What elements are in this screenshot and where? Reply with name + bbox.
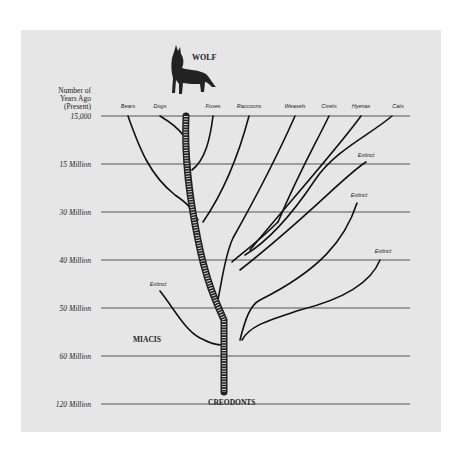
time-label: 50 Million [60, 304, 92, 313]
time-label: 15,000 [70, 112, 91, 121]
species-label: Cats [392, 103, 404, 109]
species-label: Bears [121, 103, 136, 109]
branches [128, 116, 392, 345]
species-label: Dogs [154, 103, 167, 109]
main-trunk [186, 116, 224, 392]
species-labels: Bears Dogs Foxes Raccoons Weasels Civets… [121, 103, 404, 109]
extinct-label: Extinct [358, 152, 375, 158]
species-label: Civets [321, 103, 337, 109]
extinct-label: Extinct [150, 281, 167, 287]
time-label: 30 Million [59, 208, 92, 217]
miacis-label: MIACIS [133, 335, 161, 344]
evolution-tree-diagram: Number of Years Ago (Present) 15,000 15 … [0, 0, 458, 461]
species-label: Weasels [285, 103, 306, 109]
extinct-label: Extinct [351, 192, 368, 198]
time-label: 60 Million [60, 352, 92, 361]
time-label: 40 Million [60, 256, 92, 265]
species-label: Raccoons [237, 103, 262, 109]
time-label: 120 Million [56, 400, 91, 409]
time-rules [101, 116, 410, 404]
species-label: Hyenas [352, 103, 371, 109]
time-labels: 15,000 15 Million 30 Million 40 Million … [56, 112, 91, 409]
axis-title: Number of Years Ago (Present) [58, 86, 91, 111]
creodonts-label: CREODONTS [208, 398, 256, 407]
time-label: 15 Million [60, 160, 92, 169]
wolf-title: WOLF [192, 53, 217, 62]
species-label: Foxes [206, 103, 221, 109]
svg-text:(Present): (Present) [64, 102, 92, 111]
extinct-label: Extinct [375, 248, 392, 254]
